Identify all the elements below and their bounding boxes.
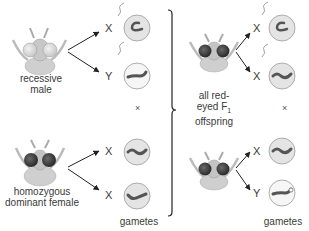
label-line: all red- <box>186 90 242 101</box>
gamete-cell-x-red-1 <box>124 139 150 165</box>
f1-gamete-cell-x-red <box>262 44 295 89</box>
white-eyed-fly-head-icon <box>13 28 66 75</box>
subscript: 1 <box>227 107 231 114</box>
label-line: offspring <box>186 116 242 127</box>
label-line: homozygous <box>0 186 84 197</box>
gamete-cell-y <box>118 42 150 89</box>
chromosome-label-y: Y <box>253 187 260 199</box>
f1-offspring-label: all red- eyed F1 offspring <box>186 90 242 127</box>
label-text: eyed F <box>197 101 228 112</box>
cross-symbol: × <box>282 103 287 113</box>
gametes-label: gametes <box>114 216 164 227</box>
homozygous-dominant-female-label: homozygous dominant female <box>0 186 84 208</box>
chromosome-label-x: X <box>105 22 112 34</box>
red-eyed-fly-head-icon <box>16 140 64 186</box>
bracket <box>168 10 176 216</box>
gamete-cell-x-red-2 <box>124 183 150 209</box>
chromosome-label-y: Y <box>105 70 112 82</box>
f1-red-eyed-fly-head-bottom-icon <box>190 152 238 190</box>
chromosome-label-x: X <box>105 145 112 157</box>
f1-red-eyed-fly-head-top-icon <box>190 34 238 72</box>
label-line: eyed F1 <box>186 101 242 116</box>
label-line: male <box>5 84 77 95</box>
label-line: recessive <box>5 73 77 84</box>
chromosome-label-x: X <box>253 145 260 157</box>
chromosome-label-x: X <box>253 22 260 34</box>
f1-gamete-cell-x-red-bottom <box>269 138 295 164</box>
gametes-label: gametes <box>258 216 308 227</box>
cross-symbol: × <box>135 103 140 113</box>
recessive-male-label: recessive male <box>5 73 77 95</box>
f1-gamete-cell-y <box>269 180 295 206</box>
label-line: dominant female <box>0 197 84 208</box>
chromosome-label-x: X <box>105 189 112 201</box>
f1-gamete-cell-x-white <box>262 2 295 41</box>
gamete-cell-x-white <box>118 3 150 41</box>
chromosome-label-x: X <box>253 70 260 82</box>
